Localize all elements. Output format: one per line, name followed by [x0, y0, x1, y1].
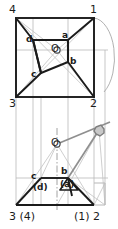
front-view-point-label-a: (a) — [60, 180, 74, 189]
top-view-corner-label-4: 4 — [9, 4, 16, 15]
top-view-point-label-a: a — [62, 31, 68, 40]
front-view-point-label-c: c — [31, 172, 36, 181]
front-view-point-label-d: (d) — [33, 183, 48, 192]
rotated-point-node-icon — [94, 125, 104, 136]
projection-drawing: 4 1 3 2 d a b c O O b c (a) (d) 3 (4) (1… — [0, 0, 118, 229]
edge-3-to-c — [16, 73, 41, 97]
front-view-point-label-o: O — [51, 138, 59, 148]
top-view-point-label-b: b — [70, 57, 76, 66]
front-view-point-label-b: b — [61, 167, 67, 176]
top-view-corner-label-3: 3 — [9, 98, 16, 109]
top-view-corner-label-1: 1 — [90, 4, 97, 15]
front-view-outline — [16, 178, 94, 205]
top-view-point-label-c: c — [31, 70, 36, 79]
edge-1-to-a — [68, 18, 94, 40]
top-view-corner-label-2: 2 — [90, 98, 97, 109]
front-view-corner-label-1-2: (1) 2 — [74, 211, 100, 222]
front-view-corner-label-3-4: 3 (4) — [9, 211, 35, 222]
edge-2-to-b — [68, 62, 94, 97]
top-view-point-label-o: O — [51, 44, 59, 54]
front-view-group — [16, 122, 110, 205]
rotation-arc — [94, 18, 114, 92]
top-view-point-label-d: d — [26, 35, 32, 44]
drawing-canvas — [0, 0, 118, 229]
